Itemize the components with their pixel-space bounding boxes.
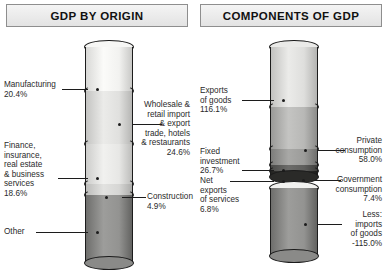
leader-dot-finance-insurance bbox=[96, 177, 99, 180]
label-finance-insurance-value: 18.6% bbox=[4, 189, 27, 198]
leader-line-finance-insurance bbox=[58, 178, 88, 179]
chart-title-bar-right: COMPONENTS OF GDP bbox=[200, 4, 382, 27]
page-title-left: GDP BY ORIGIN bbox=[51, 10, 144, 22]
segment-body bbox=[270, 188, 318, 256]
segment-fixed-investment[interactable] bbox=[270, 149, 318, 165]
segment-body bbox=[270, 47, 318, 107]
leader-line-exports-of-goods bbox=[242, 100, 274, 101]
leader-dot-less-imports-of-goods bbox=[304, 223, 307, 226]
label-net-exports-of-services-value: 6.8% bbox=[200, 205, 219, 214]
cylinder-components-of-gdp bbox=[270, 47, 318, 177]
leader-dot-private-consumption bbox=[304, 149, 307, 152]
leader-dot-exports-of-goods bbox=[282, 99, 285, 102]
label-finance-insurance: Finance, insurance, real estate & busine… bbox=[4, 141, 60, 199]
segment-body bbox=[85, 195, 133, 263]
leader-line-fixed-investment bbox=[242, 170, 274, 171]
segment-net-exports-of-services[interactable] bbox=[270, 171, 318, 177]
label-other: Other bbox=[4, 227, 48, 237]
leader-dot-fixed-investment bbox=[282, 169, 285, 172]
label-private-consumption-value: 58.0% bbox=[359, 155, 382, 164]
leader-dot-net-exports-of-services bbox=[282, 180, 285, 183]
label-wholesale-retail: Wholesale & retail import & export trade… bbox=[134, 100, 190, 158]
segment-manufacturing[interactable] bbox=[85, 47, 133, 91]
chart-panel-gdp-by-origin: GDP BY ORIGIN Manu bbox=[0, 0, 194, 275]
leader-line-manufacturing bbox=[62, 89, 88, 90]
segment-construction[interactable] bbox=[85, 184, 133, 195]
leader-dot-construction bbox=[105, 196, 108, 199]
label-government-consumption-value: 7.4% bbox=[363, 194, 382, 203]
label-construction: Construction 4.9% bbox=[147, 192, 191, 211]
label-net-exports-of-services: Net exports of services 6.8% bbox=[200, 176, 248, 214]
chart-title-bar-left: GDP BY ORIGIN bbox=[6, 4, 188, 27]
footnote bbox=[8, 268, 380, 275]
leader-dot-government-consumption bbox=[302, 179, 305, 182]
label-wholesale-retail-value: 24.6% bbox=[167, 148, 190, 157]
label-exports-of-goods-value: 116.1% bbox=[200, 105, 227, 114]
label-fixed-investment: Fixed investment 26.7% bbox=[200, 147, 246, 176]
segment-exports-of-goods[interactable] bbox=[270, 47, 318, 107]
label-fixed-investment-value: 26.7% bbox=[200, 166, 223, 175]
label-less-imports-of-goods: Less: imports of goods -115.0% bbox=[336, 210, 382, 248]
segment-less-imports-of-goods[interactable] bbox=[270, 188, 318, 256]
label-less-imports-of-goods-value: -115.0% bbox=[352, 239, 382, 248]
segment-finance-insurance[interactable] bbox=[85, 144, 133, 184]
label-manufacturing: Manufacturing 20.4% bbox=[4, 80, 64, 99]
label-construction-value: 4.9% bbox=[147, 202, 166, 211]
label-government-consumption: Government consumption 7.4% bbox=[320, 175, 382, 204]
leader-dot-manufacturing bbox=[96, 88, 99, 91]
leader-line-construction bbox=[122, 197, 146, 198]
segment-wholesale-retail[interactable] bbox=[85, 91, 133, 144]
label-exports-of-goods: Exports of goods 116.1% bbox=[200, 86, 246, 115]
leader-dot-other bbox=[96, 231, 99, 234]
segment-bottom-cap bbox=[269, 249, 318, 263]
leader-dot-wholesale-retail bbox=[118, 123, 121, 126]
segment-other[interactable] bbox=[85, 195, 133, 263]
label-private-consumption: Private consumption 58.0% bbox=[324, 136, 382, 165]
chart-panel-components-of-gdp: COMPONENTS OF GDP bbox=[194, 0, 388, 275]
cylinder-imports-detached bbox=[270, 188, 318, 256]
cylinder-gdp-by-origin bbox=[85, 47, 133, 263]
label-manufacturing-value: 20.4% bbox=[4, 90, 27, 99]
segment-private-consumption[interactable] bbox=[270, 107, 318, 149]
page-title-right: COMPONENTS OF GDP bbox=[223, 10, 360, 22]
